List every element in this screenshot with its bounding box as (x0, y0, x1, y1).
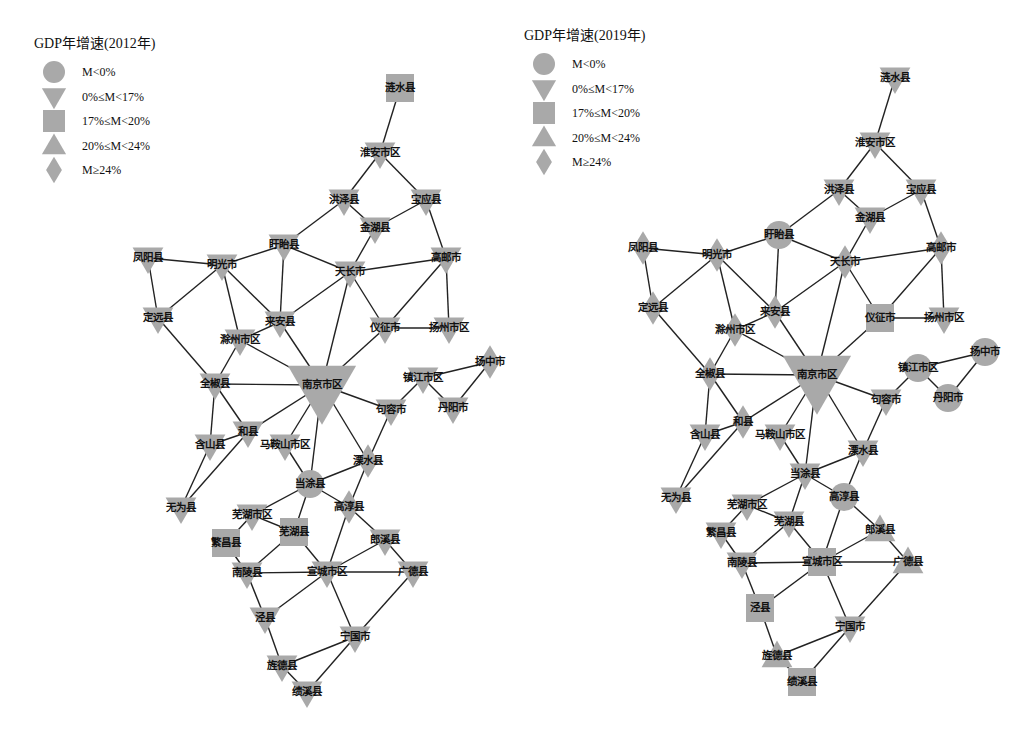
network-node[interactable]: 来安县 (264, 312, 296, 339)
node-label: 来安县 (264, 315, 296, 327)
node-label: 高邮市 (926, 241, 957, 253)
network-node[interactable]: 宝应县 (411, 190, 442, 217)
network-node[interactable]: 含山县 (195, 435, 226, 462)
network-node[interactable]: 天长市 (830, 245, 861, 279)
network-node[interactable]: 溧水县 (353, 444, 384, 478)
network-node[interactable]: 芜湖县 (279, 518, 310, 546)
network-node[interactable]: 扬州市区 (429, 318, 470, 345)
network-node[interactable]: 扬州市区 (924, 308, 965, 335)
network-node[interactable]: 全椒县 (694, 357, 726, 391)
network-node[interactable]: 芜湖市区 (232, 505, 273, 532)
node-label: 丹阳市 (438, 401, 469, 413)
legend-label: 17%≤M<20% (572, 106, 640, 120)
legend-label: 20%≤M<24% (82, 139, 150, 153)
legend-label: M<0% (572, 57, 605, 71)
node-label: 句容市 (376, 403, 407, 415)
network-node[interactable]: 溧水县 (848, 441, 879, 468)
network-node[interactable]: 芜湖县 (774, 512, 805, 539)
network-node[interactable]: 淮安市区 (360, 143, 401, 170)
network-node[interactable]: 涟水县 (880, 68, 911, 95)
network-node[interactable]: 旌德县 (761, 641, 793, 668)
network-node[interactable]: 宣城市区 (802, 548, 843, 576)
diamond-marker-icon (536, 149, 552, 175)
node-label: 泾县 (750, 601, 771, 613)
node-label: 宣城市区 (802, 555, 843, 567)
network-node[interactable]: 丹阳市 (438, 398, 469, 425)
network-node[interactable]: 盱眙县 (764, 221, 795, 249)
network-node[interactable]: 芜湖市区 (727, 495, 768, 522)
network-node[interactable]: 马鞍山市区 (260, 435, 311, 462)
network-node[interactable]: 郎溪县 (865, 515, 896, 542)
network-node[interactable]: 繁昌县 (210, 529, 242, 557)
network-panel-2019: GDP年增速(2019年) M<0%0%≤M<17%17%≤M<20%20%≤M… (524, 28, 1001, 696)
network-node[interactable]: 凤阳县 (628, 231, 659, 265)
network-node[interactable]: 洪泽县 (329, 190, 360, 217)
node-label: 旌德县 (761, 649, 793, 661)
node-label: 旌德县 (266, 659, 298, 671)
node-label: 泾县 (255, 611, 276, 623)
network-node[interactable]: 无为县 (165, 498, 197, 525)
triangle-up-marker-icon (42, 133, 66, 154)
network-node[interactable]: 繁昌县 (705, 523, 737, 550)
node-label: 宣城市区 (307, 565, 348, 577)
node-label: 南陵县 (727, 556, 758, 568)
network-node[interactable]: 镇江市区 (403, 368, 444, 395)
network-node[interactable]: 宣城市区 (307, 562, 348, 589)
legend-item: M≥24% (536, 149, 611, 175)
network-node[interactable]: 扬中市 (970, 338, 1001, 366)
node-label: 洪泽县 (329, 193, 360, 205)
node-label: 芜湖县 (279, 525, 310, 537)
legend-title-2019: GDP年增速(2019年) (524, 28, 646, 44)
network-node[interactable]: 仪征市 (864, 304, 896, 332)
node-label: 定远县 (142, 311, 174, 323)
network-node[interactable]: 绩溪县 (292, 682, 323, 709)
network-node[interactable]: 南陵县 (727, 553, 758, 580)
network-node[interactable]: 全椒县 (199, 374, 231, 401)
network-node[interactable]: 泾县 (746, 594, 774, 622)
network-node[interactable]: 镇江市区 (898, 354, 939, 382)
node-label: 溧水县 (353, 454, 384, 466)
network-node[interactable]: 无为县 (660, 488, 692, 515)
node-label: 金湖县 (359, 221, 391, 233)
node-label: 芜湖县 (774, 515, 805, 527)
node-label: 高淳县 (829, 490, 860, 502)
network-node[interactable]: 涟水县 (385, 74, 416, 102)
network-node[interactable]: 南陵县 (232, 563, 263, 590)
network-node[interactable]: 南京市区 (783, 356, 851, 415)
network-node[interactable]: 天长市 (335, 262, 366, 289)
legend-title-2012: GDP年增速(2012年) (34, 36, 156, 52)
network-node[interactable]: 滁州市区 (715, 313, 756, 347)
network-node[interactable]: 绩溪县 (787, 668, 818, 696)
network-node[interactable]: 高淳县 (334, 490, 365, 524)
diamond-marker-icon (46, 157, 62, 183)
network-node[interactable]: 含山县 (690, 425, 721, 452)
network-node[interactable]: 金湖县 (854, 208, 886, 235)
network-node[interactable]: 句容市 (871, 390, 902, 417)
network-node[interactable]: 宝应县 (906, 180, 937, 207)
network-node[interactable]: 定远县 (637, 291, 669, 325)
network-node[interactable]: 当涂县 (295, 470, 326, 498)
node-label: 宝应县 (411, 193, 442, 205)
legend-item: 17%≤M<20% (43, 110, 150, 132)
node-label: 涟水县 (385, 81, 416, 93)
legend-item: 0%≤M<17% (532, 80, 634, 101)
node-label: 无为县 (165, 501, 197, 513)
network-node[interactable]: 滁州市区 (220, 330, 261, 357)
network-node[interactable]: 凤阳县 (133, 248, 164, 275)
node-label: 扬中市 (475, 355, 506, 367)
node-label: 绩溪县 (787, 675, 818, 687)
network-node[interactable]: 仪征市 (369, 318, 401, 345)
triangle-down-marker-icon (532, 80, 556, 101)
network-node[interactable]: 明光市 (207, 255, 238, 282)
network-node[interactable]: 泾县 (250, 608, 281, 635)
network-node[interactable]: 南京市区 (288, 366, 356, 425)
network-node[interactable]: 马鞍山市区 (755, 425, 806, 452)
network-node[interactable]: 淮安市区 (855, 133, 896, 160)
network-node[interactable]: 句容市 (376, 400, 407, 427)
node-label: 马鞍山市区 (260, 438, 311, 450)
network-node[interactable]: 洪泽县 (824, 180, 855, 207)
network-node[interactable]: 盱眙县 (269, 235, 300, 262)
network-node[interactable]: 金湖县 (359, 218, 391, 245)
network-node[interactable]: 当涂县 (790, 464, 821, 491)
node-label: 马鞍山市区 (755, 428, 806, 440)
